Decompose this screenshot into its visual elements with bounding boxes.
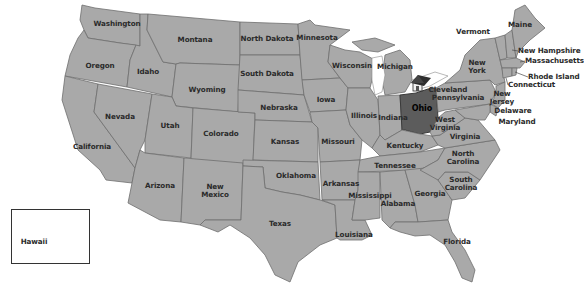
state-label-arizona: Arizona	[145, 182, 175, 190]
state-label-washington: Washington	[93, 20, 140, 28]
state-label-new-hampshire: New Hampshire	[518, 47, 581, 55]
state-label-missouri: Missouri	[321, 138, 354, 146]
state-label-massachusetts: Massachusetts	[525, 57, 584, 65]
state-label-oklahoma: Oklahoma	[276, 172, 316, 180]
state-label-minnesota: Minnesota	[296, 34, 337, 42]
state-label-west-virginia: WestVirginia	[430, 116, 461, 132]
state-label-kentucky: Kentucky	[387, 142, 424, 150]
state-label-alabama: Alabama	[381, 200, 416, 208]
state-label-pennsylvania: Pennsylvania	[432, 94, 485, 102]
state-label-ohio: Ohio	[412, 105, 432, 113]
state-label-montana: Montana	[178, 36, 213, 44]
state-label-arkansas: Arkansas	[323, 180, 359, 188]
state-label-wisconsin: Wisconsin	[332, 62, 372, 70]
state-label-new-jersey: NewJersey	[490, 90, 514, 106]
state-label-oregon: Oregon	[85, 62, 114, 70]
state-massachusetts[interactable]	[500, 58, 525, 68]
state-label-nevada: Nevada	[105, 113, 135, 121]
state-label-indiana: Indiana	[378, 114, 408, 122]
state-label-new-york: NewYork	[468, 59, 485, 75]
state-label-virginia: Virginia	[450, 133, 481, 141]
state-michigan-upper[interactable]	[352, 38, 395, 52]
state-label-iowa: Iowa	[317, 96, 336, 104]
state-michigan[interactable]	[382, 50, 412, 95]
state-label-colorado: Colorado	[203, 130, 238, 138]
state-label-idaho: Idaho	[137, 68, 159, 76]
state-label-north-carolina: NorthCarolina	[447, 150, 480, 166]
state-rhode-island[interactable]	[512, 68, 517, 76]
state-label-california: California	[73, 143, 111, 151]
state-label-texas: Texas	[269, 220, 291, 228]
state-label-michigan: Michigan	[377, 63, 413, 71]
state-label-kansas: Kansas	[271, 138, 299, 146]
state-label-north-dakota: North Dakota	[241, 35, 294, 43]
state-label-florida: Florida	[443, 238, 471, 246]
state-florida[interactable]	[390, 220, 475, 282]
state-label-vermont: Vermont	[456, 28, 490, 36]
state-label-georgia: Georgia	[414, 190, 445, 198]
state-connecticut[interactable]	[502, 68, 512, 78]
state-label-illinois: Illinois	[351, 112, 377, 120]
state-label-louisiana: Louisiana	[335, 231, 373, 239]
state-label-wyoming: Wyoming	[188, 86, 225, 94]
state-label-maryland: Maryland	[498, 118, 535, 126]
leader-rhode-island	[515, 72, 528, 77]
state-label-new-mexico: NewMexico	[201, 183, 229, 199]
state-label-tennessee: Tennessee	[374, 162, 415, 170]
state-label-hawaii: Hawaii	[21, 238, 48, 246]
state-label-south-carolina: SouthCarolina	[445, 176, 478, 192]
city-label-cleveland: Cleveland	[429, 86, 468, 94]
state-label-utah: Utah	[161, 122, 180, 130]
state-label-connecticut: Connecticut	[508, 81, 555, 89]
state-label-south-dakota: South Dakota	[240, 70, 294, 78]
state-label-delaware: Delaware	[494, 107, 531, 115]
state-label-maine: Maine	[508, 21, 532, 29]
state-label-nebraska: Nebraska	[260, 104, 298, 112]
